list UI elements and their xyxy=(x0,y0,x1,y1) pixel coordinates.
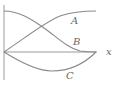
curve-b-label: B xyxy=(72,36,80,47)
diagram-svg: A B C x xyxy=(0,0,120,88)
curve-a xyxy=(4,11,96,52)
curve-b xyxy=(4,11,96,52)
curve-a-label: A xyxy=(70,15,78,26)
curve-c xyxy=(4,52,96,71)
curve-c-label: C xyxy=(66,70,74,81)
diagram-canvas: A B C x xyxy=(0,0,120,88)
x-axis-label: x xyxy=(106,46,112,57)
